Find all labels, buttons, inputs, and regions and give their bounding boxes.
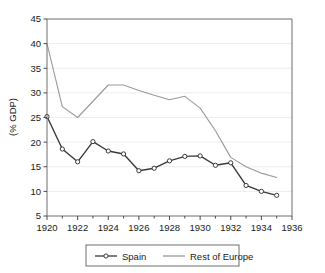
y-tick-label: 20 (30, 137, 41, 148)
y-tick-label: 25 (30, 112, 41, 123)
x-tick-label: 1924 (98, 222, 119, 233)
y-tick-label: 40 (30, 38, 41, 49)
y-tick-label: 10 (30, 186, 41, 197)
y-tick-label: 35 (30, 63, 41, 74)
legend-label-spain: Spain (122, 251, 146, 262)
data-point-spain (137, 169, 141, 173)
data-point-spain (106, 149, 110, 153)
data-point-spain (121, 152, 125, 156)
data-point-spain (76, 160, 80, 164)
x-tick-label: 1926 (128, 222, 149, 233)
y-axis-tick-labels: 51015202530354045 (30, 13, 41, 221)
data-point-spain (275, 193, 279, 197)
data-point-spain (213, 163, 217, 167)
y-tick-label: 30 (30, 87, 41, 98)
chart-figure: 51015202530354045 1920192219241926192819… (0, 0, 325, 273)
y-axis-title: (% GDP) (7, 98, 18, 136)
data-point-spain (152, 166, 156, 170)
data-point-spain (244, 183, 248, 187)
y-tick-label: 45 (30, 13, 41, 24)
legend-marker-spain (104, 254, 108, 258)
data-point-spain (198, 154, 202, 158)
x-axis-ticks (47, 216, 292, 220)
data-point-spain (60, 147, 64, 151)
data-point-spain (91, 140, 95, 144)
data-point-spain (167, 159, 171, 163)
y-tick-label: 5 (36, 210, 41, 221)
chart-legend: Spain Rest of Europe (86, 245, 253, 266)
x-tick-label: 1934 (251, 222, 272, 233)
legend-label-rest-of-europe: Rest of Europe (190, 251, 253, 262)
data-point-spain (229, 161, 233, 165)
data-point-spain (183, 154, 187, 158)
y-tick-label: 15 (30, 161, 41, 172)
y-axis-ticks (44, 19, 48, 216)
x-axis-tick-labels: 192019221924192619281930193219341936 (36, 222, 302, 233)
x-tick-label: 1932 (220, 222, 241, 233)
x-tick-label: 1922 (67, 222, 88, 233)
data-point-spain (259, 189, 263, 193)
x-tick-label: 1928 (159, 222, 180, 233)
x-tick-label: 1936 (281, 222, 302, 233)
x-tick-label: 1930 (190, 222, 211, 233)
x-tick-label: 1920 (36, 222, 57, 233)
line-chart: 51015202530354045 1920192219241926192819… (0, 0, 325, 273)
